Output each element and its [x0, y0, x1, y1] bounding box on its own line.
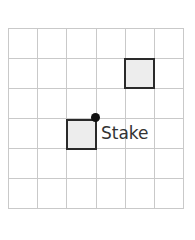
stake-label: Stake [101, 125, 149, 142]
upper-right-square [124, 58, 155, 89]
grid-line [8, 28, 184, 29]
grid-line [8, 88, 184, 89]
grid-line [8, 58, 184, 59]
lower-left-square [66, 119, 97, 150]
grid-line [8, 178, 184, 179]
grid-line [8, 208, 184, 209]
stake-dot [91, 113, 100, 122]
